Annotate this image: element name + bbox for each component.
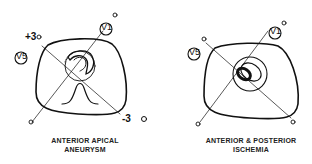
axis-line-v1 xyxy=(32,31,103,122)
v5-label-right: V5 xyxy=(189,47,200,57)
minus-marker: -3 xyxy=(122,113,131,124)
caption-left-line1: ANTERIOR APICAL xyxy=(30,136,140,145)
caption-left: ANTERIOR APICAL ANEURYSM xyxy=(30,136,140,154)
caption-left-line2: ANEURYSM xyxy=(30,145,140,154)
qrs-wave xyxy=(62,84,98,105)
caption-right-line2: ISCHEMIA xyxy=(192,145,310,154)
plus-marker: +3 xyxy=(25,31,36,42)
caption-right-line1: ANTERIOR & POSTERIOR xyxy=(192,136,310,145)
v1-label-right: V1 xyxy=(270,26,281,36)
caption-right: ANTERIOR & POSTERIOR ISCHEMIA xyxy=(192,136,310,154)
ischemia-zone xyxy=(235,66,252,82)
v1-label-left: V1 xyxy=(101,22,112,32)
v5-label-left: V5 xyxy=(16,51,27,61)
